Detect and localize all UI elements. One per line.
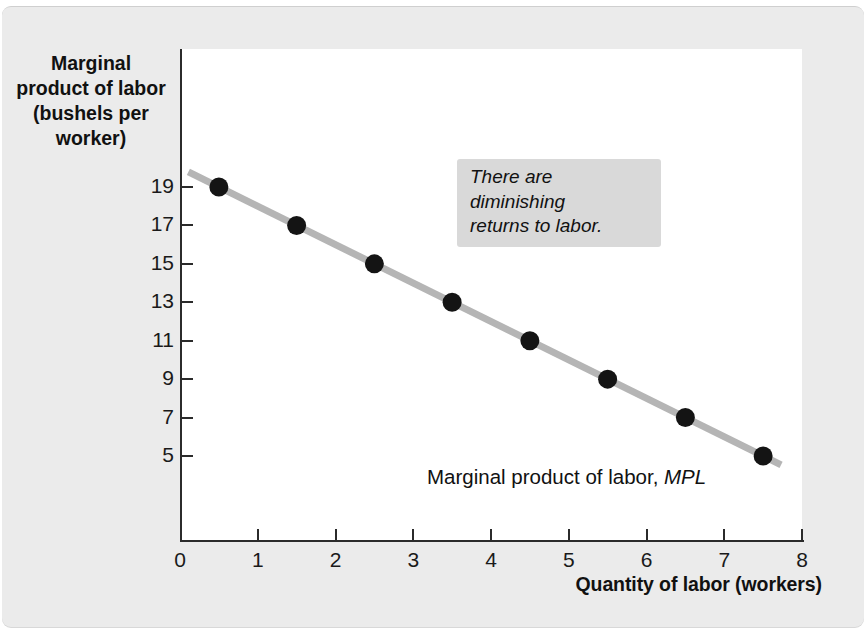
x-tick-label-2: 2: [316, 548, 356, 572]
x-tick-label-5: 5: [549, 548, 589, 572]
data-point-3.5-13: [443, 293, 462, 312]
x-tick-8: [801, 529, 803, 540]
y-tick-label-17: 17: [114, 212, 174, 236]
data-point-0.5-19: [209, 178, 228, 197]
y-axis-line: [180, 49, 182, 542]
x-tick-label-4: 4: [471, 548, 511, 572]
data-point-6.5-7: [676, 408, 695, 427]
x-tick-label-3: 3: [393, 548, 433, 572]
y-tick-label-5: 5: [114, 443, 174, 467]
x-tick-4: [490, 529, 492, 540]
annotation-line-1: There are diminishing: [470, 166, 565, 212]
data-point-5.5-9: [598, 370, 617, 389]
x-axis-title: Quantity of labor (workers): [422, 573, 822, 596]
y-tick-label-13: 13: [114, 289, 174, 313]
curve-label: Marginal product of labor, MPL: [427, 465, 706, 489]
y-tick-7: [182, 417, 193, 419]
y-tick-9: [182, 378, 193, 380]
x-tick-label-0: 0: [160, 548, 200, 572]
x-tick-label-7: 7: [704, 548, 744, 572]
y-tick-label-7: 7: [114, 405, 174, 429]
diminishing-returns-annotation: There are diminishing returns to labor.: [457, 159, 661, 247]
y-tick-15: [182, 263, 193, 265]
x-tick-1: [257, 529, 259, 540]
data-point-7.5-5: [754, 447, 773, 466]
y-tick-label-19: 19: [114, 174, 174, 198]
curve-label-plain: Marginal product of labor,: [427, 465, 664, 488]
x-tick-7: [723, 529, 725, 540]
x-tick-label-1: 1: [238, 548, 278, 572]
y-tick-label-9: 9: [114, 366, 174, 390]
y-tick-label-layer: 5791113151719: [104, 7, 174, 627]
y-tick-19: [182, 186, 193, 188]
y-tick-17: [182, 224, 193, 226]
x-axis-line: [180, 540, 804, 542]
x-tick-label-8: 8: [782, 548, 822, 572]
x-tick-2: [335, 529, 337, 540]
x-tick-6: [646, 529, 648, 540]
y-tick-5: [182, 455, 193, 457]
data-point-4.5-11: [520, 331, 539, 350]
data-point-1.5-17: [287, 216, 306, 235]
annotation-line-2: returns to labor.: [470, 215, 602, 236]
y-tick-11: [182, 340, 193, 342]
data-point-2.5-15: [365, 254, 384, 273]
x-tick-3: [412, 529, 414, 540]
y-tick-label-15: 15: [114, 251, 174, 275]
y-tick-13: [182, 301, 193, 303]
figure-panel: Marginal product of labor (bushels per w…: [2, 6, 864, 627]
x-tick-label-6: 6: [627, 548, 667, 572]
y-tick-label-11: 11: [114, 328, 174, 352]
curve-label-italic: MPL: [664, 465, 706, 488]
x-tick-5: [568, 529, 570, 540]
